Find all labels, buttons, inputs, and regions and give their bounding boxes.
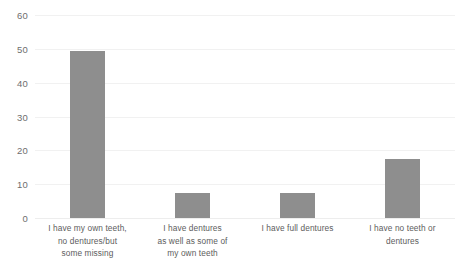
y-axis-tick-label: 10 [17,179,28,190]
gridline-0: 0 [35,218,455,219]
y-axis-tick-label: 30 [17,111,28,122]
category-label-line: my own teeth [140,247,245,260]
category-label-line: I have my own teeth, [35,222,140,235]
bar [280,193,315,218]
category-label-line: as well as some of [140,235,245,248]
category-label-line: no dentures/but [35,235,140,248]
plot-area: 0102030405060 [35,15,455,218]
category-axis-labels: I have my own teeth,no dentures/butsome … [35,222,455,274]
category-label: I have denturesas well as some ofmy own … [140,222,245,260]
bar-chart: 0102030405060 I have my own teeth,no den… [0,0,467,277]
bar [385,159,420,218]
category-label-line: I have dentures [140,222,245,235]
bar [175,193,210,218]
bar-series [35,15,455,218]
y-axis-tick-label: 40 [17,77,28,88]
category-label-line: I have no teeth or [350,222,455,235]
y-axis-tick-label: 50 [17,43,28,54]
category-label-line: some missing [35,247,140,260]
y-axis-tick-label: 20 [17,145,28,156]
bar [70,51,105,218]
category-label: I have full dentures [245,222,350,235]
category-label-line: I have full dentures [245,222,350,235]
category-label: I have no teeth ordentures [350,222,455,247]
category-label: I have my own teeth,no dentures/butsome … [35,222,140,260]
y-axis-tick-label: 60 [17,10,28,21]
y-axis-tick-label: 0 [23,213,28,224]
category-label-line: dentures [350,235,455,248]
